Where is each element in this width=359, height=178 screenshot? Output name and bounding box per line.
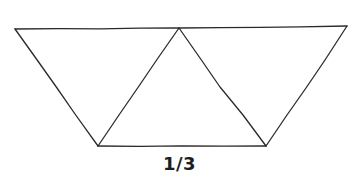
bottom-edge xyxy=(98,146,266,147)
inner-right-diagonal xyxy=(179,28,266,146)
left-triangle xyxy=(15,28,179,146)
fraction-caption: 1/3 xyxy=(0,154,359,174)
right-triangle xyxy=(179,26,347,146)
inner-divisions xyxy=(98,28,266,146)
left-edge xyxy=(15,29,98,146)
inner-left-diagonal xyxy=(98,28,179,146)
right-edge xyxy=(266,26,347,146)
triangles xyxy=(15,26,347,146)
middle-triangle xyxy=(98,28,266,146)
trapezoid-diagram xyxy=(0,0,359,178)
trapezoid-outline xyxy=(15,26,347,146)
top-edge xyxy=(15,26,347,29)
